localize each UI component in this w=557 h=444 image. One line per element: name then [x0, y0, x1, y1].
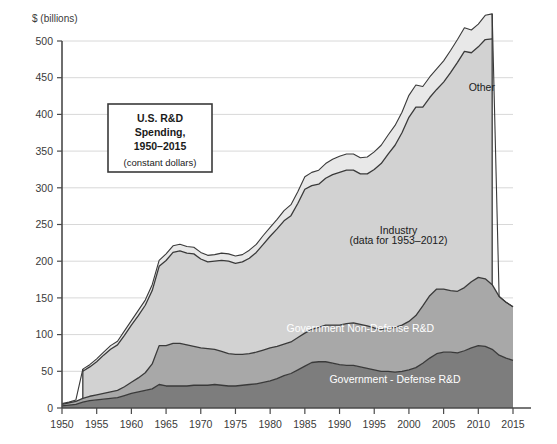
x-tick-label: 1950: [50, 418, 74, 430]
y-axis-title: $ (billions): [32, 13, 78, 24]
chart-container: 0501001502002503003504004505001950195519…: [0, 0, 557, 444]
x-tick-label: 2000: [397, 418, 421, 430]
rd-spending-area-chart: 0501001502002503003504004505001950195519…: [0, 0, 557, 444]
defense-label: Government - Defense R&D: [329, 373, 461, 385]
x-tick-label: 1985: [293, 418, 317, 430]
x-tick-label: 1970: [189, 418, 213, 430]
stacked-areas: [62, 14, 513, 408]
x-tick-label: 2010: [467, 418, 491, 430]
y-tick-label: 350: [35, 145, 53, 157]
chart-title-box: U.S. R&DSpending,1950–2015(constant doll…: [108, 104, 212, 172]
y-tick-label: 0: [47, 402, 53, 414]
chart-title-line: 1950–2015: [134, 140, 187, 152]
nondefense-label: Government Non-Defense R&D: [287, 322, 435, 334]
other-label: Other: [469, 81, 496, 93]
y-tick-label: 500: [35, 35, 53, 47]
x-tick-label: 1980: [258, 418, 282, 430]
y-tick-label: 300: [35, 182, 53, 194]
industry-label-line2: (data for 1953–2012): [349, 234, 447, 246]
x-tick-label: 1975: [224, 418, 248, 430]
chart-title-line: Spending,: [135, 126, 186, 138]
x-tick-label: 1995: [363, 418, 387, 430]
x-tick-label: 1960: [120, 418, 144, 430]
y-tick-label: 200: [35, 255, 53, 267]
chart-title-line: U.S. R&D: [137, 112, 184, 124]
y-tick-label: 450: [35, 71, 53, 83]
y-axis-ticks: 050100150200250300350400450500: [35, 35, 62, 414]
x-tick-label: 1965: [154, 418, 178, 430]
x-axis-ticks: 1950195519601965197019751980198519901995…: [50, 408, 525, 430]
x-tick-label: 2015: [501, 418, 525, 430]
y-tick-label: 150: [35, 292, 53, 304]
x-tick-label: 1990: [328, 418, 352, 430]
y-tick-label: 400: [35, 108, 53, 120]
x-tick-label: 2005: [432, 418, 456, 430]
chart-subtitle: (constant dollars): [124, 157, 197, 168]
y-tick-label: 50: [41, 365, 53, 377]
y-tick-label: 250: [35, 218, 53, 230]
y-tick-label: 100: [35, 328, 53, 340]
x-tick-label: 1955: [85, 418, 109, 430]
